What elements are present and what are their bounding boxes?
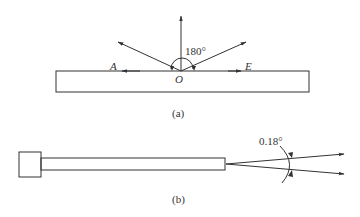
arc-arrowhead-top: [288, 152, 293, 158]
mount-block: [19, 152, 41, 177]
figure-b: 0.18° (b): [19, 135, 344, 206]
diagram-canvas: 180° O A E (a) 0.18° (b): [0, 0, 360, 217]
angle-label-018: 0.18°: [259, 135, 283, 147]
label-o: O: [175, 73, 183, 85]
caption-b: (b): [172, 193, 185, 206]
angle-label-180: 180°: [185, 45, 206, 57]
caption-a: (a): [172, 107, 185, 120]
divergence-arc: [280, 146, 290, 183]
label-e: E: [244, 60, 252, 72]
upper-beam-arrow: [226, 154, 344, 164]
lower-beam-arrow: [226, 164, 344, 174]
label-a: A: [109, 60, 117, 72]
rod: [41, 158, 225, 170]
figure-a: 180° O A E (a): [56, 16, 309, 120]
